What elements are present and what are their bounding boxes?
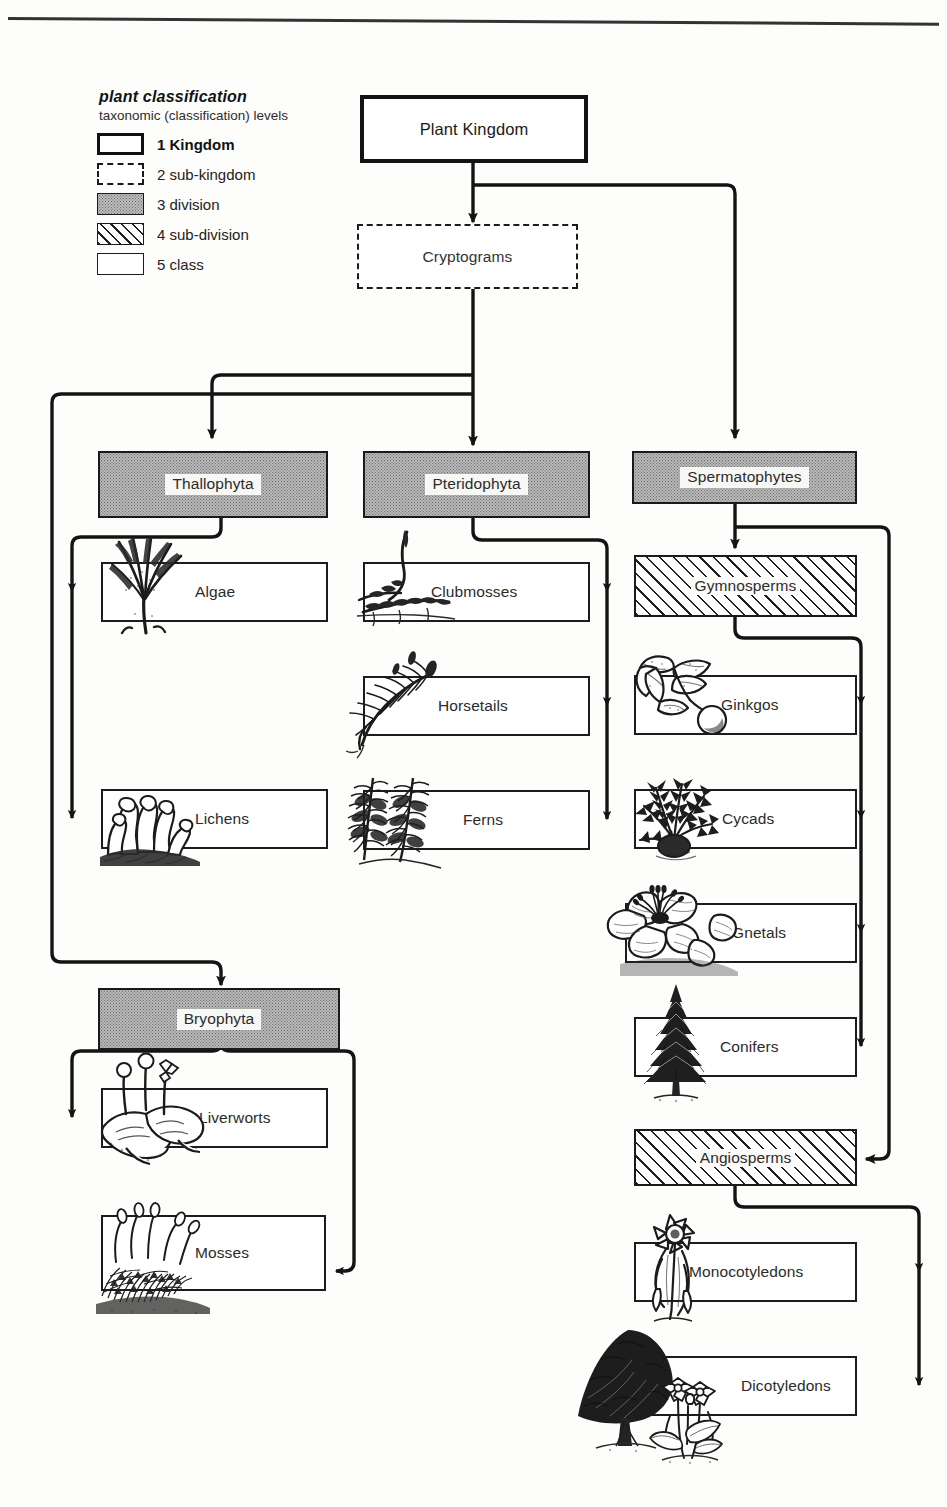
node-label: Cycads — [722, 810, 774, 828]
node-label: Algae — [195, 583, 235, 601]
node-label: Liverworts — [199, 1109, 271, 1127]
node-label: Bryophyta — [177, 1009, 262, 1030]
node-label: Gnetals — [732, 924, 786, 942]
legend-item-division: 3 division — [97, 189, 367, 219]
node-ginkgos[interactable]: Ginkgos — [634, 675, 857, 735]
node-label: Gymnosperms — [691, 577, 801, 595]
legend-subtitle: taxonomic (classification) levels — [99, 108, 367, 123]
node-mosses[interactable]: Mosses — [101, 1215, 326, 1291]
node-spermatophytes[interactable]: Spermatophytes — [632, 451, 857, 504]
node-cycads[interactable]: Cycads — [634, 789, 857, 849]
legend-item-label: 2 sub-kingdom — [157, 166, 255, 183]
node-ferns[interactable]: Ferns — [363, 790, 590, 850]
node-label: Cryptograms — [423, 248, 513, 266]
node-horsetails[interactable]: Horsetails — [363, 676, 590, 736]
node-label: Dicotyledons — [741, 1377, 831, 1395]
node-gymnosperms[interactable]: Gymnosperms — [634, 555, 857, 617]
node-gnetals[interactable]: Gnetals — [625, 903, 857, 963]
node-label: Thallophyta — [165, 474, 260, 495]
node-label: Mosses — [195, 1244, 249, 1262]
node-pteridophyta[interactable]: Pteridophyta — [363, 451, 590, 518]
legend-item-label: 3 division — [157, 196, 220, 213]
node-label: Lichens — [195, 810, 249, 828]
legend-item-label: 1 Kingdom — [157, 136, 235, 153]
node-liverworts[interactable]: Liverworts — [101, 1088, 328, 1148]
node-cryptograms[interactable]: Cryptograms — [357, 224, 578, 289]
solid-thick-box-swatch-icon — [97, 133, 144, 155]
legend-item-label: 5 class — [157, 256, 204, 273]
legend-item-subdivision: 4 sub-division — [97, 219, 367, 249]
node-label: Ferns — [463, 811, 503, 829]
edge-cryptograms-thallophyta — [212, 375, 473, 438]
legend-item-subkingdom: 2 sub-kingdom — [97, 159, 367, 189]
node-label: Pteridophyta — [425, 474, 527, 495]
hatched-box-swatch-icon — [97, 223, 144, 245]
plant-classification-diagram: plant classification taxonomic (classifi… — [0, 0, 947, 1507]
node-label: Plant Kingdom — [420, 120, 529, 139]
node-label: Monocotyledons — [689, 1263, 803, 1281]
node-dicotyledons[interactable]: Dicotyledons — [634, 1356, 857, 1416]
page-border-rule — [8, 17, 939, 26]
node-label: Conifers — [720, 1038, 779, 1056]
legend-item-kingdom: 1 Kingdom — [97, 129, 367, 159]
grey-filled-box-swatch-icon — [97, 193, 144, 215]
node-clubmosses[interactable]: Clubmosses — [363, 562, 590, 622]
node-lichens[interactable]: Lichens — [101, 789, 328, 849]
node-algae[interactable]: Algae — [101, 562, 328, 622]
legend-item-label: 4 sub-division — [157, 226, 249, 243]
node-label: Ginkgos — [721, 696, 779, 714]
node-monocotyledons[interactable]: Monocotyledons — [634, 1242, 857, 1302]
dashed-box-swatch-icon — [97, 163, 144, 185]
node-conifers[interactable]: Conifers — [634, 1017, 857, 1077]
node-plant-kingdom[interactable]: Plant Kingdom — [360, 95, 588, 163]
node-label: Horsetails — [438, 697, 508, 715]
node-label: Clubmosses — [431, 583, 517, 601]
node-bryophyta[interactable]: Bryophyta — [98, 988, 340, 1050]
node-thallophyta[interactable]: Thallophyta — [98, 451, 328, 518]
plain-box-swatch-icon — [97, 253, 144, 275]
edge-kingdom-spermatophytes — [473, 185, 735, 438]
node-label: Spermatophytes — [680, 467, 808, 488]
legend-title: plant classification — [99, 88, 367, 106]
node-angiosperms[interactable]: Angiosperms — [634, 1129, 857, 1186]
legend-item-class: 5 class — [97, 249, 367, 279]
node-label: Angiosperms — [696, 1149, 796, 1167]
legend: plant classification taxonomic (classifi… — [97, 88, 367, 279]
